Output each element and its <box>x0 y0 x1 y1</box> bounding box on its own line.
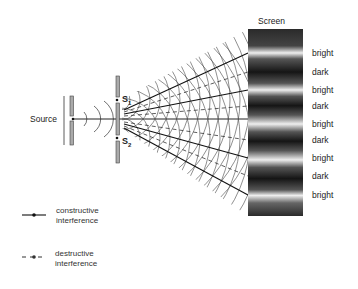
screen-label: Screen <box>258 17 285 26</box>
fringe-label: bright <box>312 191 333 200</box>
screen <box>248 29 303 216</box>
fringe-label: dark <box>312 172 329 181</box>
fringe-label: dark <box>312 136 329 145</box>
fringe-label: bright <box>312 154 333 163</box>
fringe-label: bright <box>312 86 333 95</box>
legend-constructive-symbol <box>22 213 46 217</box>
interference-diagram <box>0 0 358 289</box>
double-slit-barrier <box>116 76 120 163</box>
slit-2-label: S2 <box>122 137 131 148</box>
slit-1-label: S1 <box>122 95 131 106</box>
fringe-label: bright <box>312 49 333 58</box>
legend-destructive-symbol <box>22 255 46 259</box>
fringe-label: bright <box>312 120 333 129</box>
source-label: Source <box>30 115 57 124</box>
fringe-label: dark <box>312 102 329 111</box>
legend-constructive: constructive interference <box>56 206 99 226</box>
legend-destructive: destructive interference <box>55 249 97 269</box>
fringe-label: dark <box>312 68 329 77</box>
source-barrier <box>64 96 74 145</box>
